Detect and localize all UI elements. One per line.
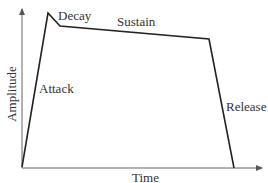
sustain-label: Sustain (117, 15, 155, 28)
decay-label: Decay (58, 9, 91, 22)
attack-label: Attack (39, 82, 74, 95)
x-axis-label: Time (132, 171, 159, 183)
y-axis-label: Amplitude (4, 64, 20, 124)
release-label: Release (226, 100, 266, 113)
